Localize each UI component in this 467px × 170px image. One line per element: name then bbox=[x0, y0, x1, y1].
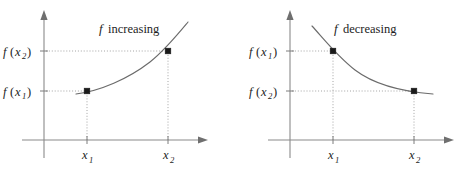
x-label-x1-var: x bbox=[327, 148, 334, 162]
x-label-x2-var: x bbox=[162, 148, 169, 162]
y-label-fx1-var: x bbox=[14, 85, 21, 99]
x-axis-label-x1: x 1 bbox=[81, 148, 93, 165]
panel-decreasing: f decreasing f ( x 1 ) f ( x 2 ) x 1 bbox=[233, 0, 467, 170]
x-label-x1-sub: 1 bbox=[335, 155, 339, 165]
y-label-fx1-close: ) bbox=[27, 85, 31, 99]
y-axis-arrow-icon bbox=[286, 10, 293, 20]
x-axis-label-x2: x 2 bbox=[162, 148, 175, 165]
y-label-fx2-close: ) bbox=[27, 45, 31, 59]
y-label-fx2-fn: f bbox=[3, 45, 8, 59]
y-axis-label-fx1: f ( x 1 ) bbox=[3, 85, 31, 102]
x-label-x1-sub: 1 bbox=[89, 155, 93, 165]
title-word: decreasing bbox=[343, 22, 397, 36]
y-label-fx1-close: ) bbox=[273, 45, 277, 59]
y-axis-arrow-icon bbox=[40, 10, 47, 20]
panel-increasing: f increasing f ( x 2 ) f ( x 1 ) x 1 bbox=[0, 0, 233, 170]
y-axis-label-fx2: f ( x 2 ) bbox=[249, 85, 277, 102]
title-f-italic: f bbox=[99, 21, 105, 36]
y-axis-label-fx1: f ( x 1 ) bbox=[249, 45, 277, 62]
y-label-fx1-sub: 1 bbox=[268, 51, 272, 61]
data-point-1 bbox=[330, 48, 336, 54]
y-label-fx2-close: ) bbox=[273, 85, 277, 99]
data-point-1 bbox=[84, 88, 90, 94]
y-label-fx1-var: x bbox=[260, 45, 267, 59]
y-label-fx2-open: ( bbox=[256, 85, 260, 99]
x-axis-arrow-icon bbox=[444, 136, 454, 143]
y-label-fx2-open: ( bbox=[10, 45, 14, 59]
data-point-2 bbox=[165, 48, 171, 54]
y-label-fx1-fn: f bbox=[249, 45, 254, 59]
title-word: increasing bbox=[108, 22, 160, 36]
x-label-x2-sub: 2 bbox=[416, 155, 421, 165]
curve-decreasing bbox=[312, 26, 433, 94]
y-label-fx2-fn: f bbox=[249, 85, 254, 99]
title-f-italic: f bbox=[334, 21, 340, 36]
y-axis-label-fx2: f ( x 2 ) bbox=[3, 45, 31, 62]
x-label-x2-var: x bbox=[408, 148, 415, 162]
y-label-fx1-open: ( bbox=[256, 45, 260, 59]
x-label-x1-var: x bbox=[81, 148, 88, 162]
x-axis-label-x2: x 2 bbox=[408, 148, 421, 165]
y-label-fx2-var: x bbox=[14, 45, 21, 59]
figure-root: f increasing f ( x 2 ) f ( x 1 ) x 1 bbox=[0, 0, 467, 170]
y-label-fx1-sub: 1 bbox=[22, 91, 26, 101]
x-label-x2-sub: 2 bbox=[170, 155, 175, 165]
x-axis-arrow-icon bbox=[198, 136, 208, 143]
x-axis-label-x1: x 1 bbox=[327, 148, 339, 165]
y-label-fx1-open: ( bbox=[10, 85, 14, 99]
y-label-fx1-fn: f bbox=[3, 85, 8, 99]
data-point-2 bbox=[411, 88, 417, 94]
y-label-fx2-var: x bbox=[260, 85, 267, 99]
